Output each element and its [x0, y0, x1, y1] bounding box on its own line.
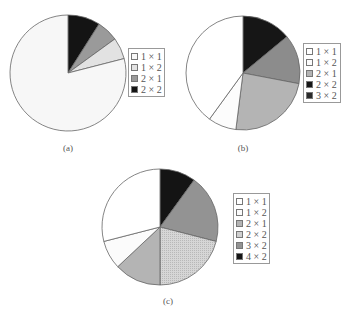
- legend-c: 1 × 1 1 × 2 2 × 1 2 × 2 3 × 2 4 × 2: [233, 193, 270, 264]
- legend-swatch: [236, 209, 243, 216]
- legend-item: 1 × 2: [236, 207, 266, 218]
- legend-label: 1 × 1: [246, 196, 267, 207]
- legend-item: 2 × 2: [236, 229, 266, 240]
- legend-label: 3 × 2: [246, 240, 267, 251]
- legend-swatch: [236, 198, 243, 205]
- pie-panel-c: 1 × 1 1 × 2 2 × 1 2 × 2 3 × 2 4 × 2 (c): [0, 0, 350, 312]
- legend-label: 2 × 2: [246, 229, 267, 240]
- legend-item: 3 × 2: [236, 240, 266, 251]
- legend-item: 1 × 1: [236, 196, 266, 207]
- legend-item: 2 × 1: [236, 218, 266, 229]
- legend-label: 4 × 2: [246, 251, 267, 262]
- caption-c: (c): [153, 296, 183, 306]
- pie-chart-c: [0, 0, 350, 312]
- legend-label: 2 × 1: [246, 218, 267, 229]
- legend-item: 4 × 2: [236, 251, 266, 262]
- legend-label: 1 × 2: [246, 207, 267, 218]
- legend-swatch: [236, 253, 243, 260]
- legend-swatch: [236, 242, 243, 249]
- pie-c-slices: [102, 169, 218, 285]
- legend-swatch: [236, 231, 243, 238]
- legend-swatch: [236, 220, 243, 227]
